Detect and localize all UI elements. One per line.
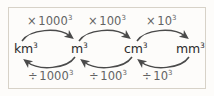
unit-exponent-km: 3 xyxy=(33,41,38,50)
unit-conversion-diagram: km3 m3 cm3 mm3 ×10003 ×1003 ×103 ÷10003 … xyxy=(0,0,214,96)
bottom-exponent-3: 3 xyxy=(168,69,173,77)
top-operand-2: 100 xyxy=(99,14,121,28)
bottom-operand-2: 100 xyxy=(100,69,122,83)
bottom-operand-3: 10 xyxy=(153,69,168,83)
bottom-exponent-2: 3 xyxy=(123,69,128,77)
divide-symbol-1: ÷ xyxy=(28,69,39,83)
multiply-symbol-3: × xyxy=(146,14,157,28)
unit-node-mm3: mm3 xyxy=(176,43,205,56)
unit-node-m3: m3 xyxy=(71,43,88,56)
top-operation-label-2: ×1003 xyxy=(88,16,126,28)
divide-symbol-3: ÷ xyxy=(142,69,153,83)
unit-label-cm: cm xyxy=(124,41,143,56)
unit-label-km: km xyxy=(14,41,33,56)
top-arrow-cm3-to-mm3 xyxy=(137,30,185,41)
unit-exponent-cm: 3 xyxy=(143,41,148,50)
divide-symbol-2: ÷ xyxy=(89,69,100,83)
bottom-arrow-cm3-to-m3 xyxy=(84,57,132,68)
multiply-symbol-1: × xyxy=(27,14,38,28)
bottom-exponent-1: 3 xyxy=(69,69,74,77)
top-operation-label-1: ×10003 xyxy=(27,16,72,28)
unit-node-km3: km3 xyxy=(14,43,38,56)
top-exponent-1: 3 xyxy=(68,14,73,22)
bottom-operation-label-1: ÷10003 xyxy=(28,71,73,83)
bottom-operand-1: 1000 xyxy=(39,69,69,83)
top-arrow-m3-to-cm3 xyxy=(79,30,127,41)
bottom-operation-label-3: ÷103 xyxy=(142,71,173,83)
top-operation-label-3: ×103 xyxy=(146,16,177,28)
top-operand-3: 10 xyxy=(157,14,172,28)
bottom-operation-label-2: ÷1003 xyxy=(89,71,127,83)
unit-label-mm: mm xyxy=(176,41,200,56)
unit-label-m: m xyxy=(71,41,83,56)
bottom-arrow-m3-to-km3 xyxy=(27,57,75,68)
top-operand-1: 1000 xyxy=(38,14,68,28)
unit-exponent-mm: 3 xyxy=(200,41,205,50)
top-exponent-3: 3 xyxy=(172,14,177,22)
top-arrow-km3-to-m3 xyxy=(22,30,70,41)
top-exponent-2: 3 xyxy=(122,14,127,22)
bottom-arrow-mm3-to-cm3 xyxy=(141,57,189,68)
unit-node-cm3: cm3 xyxy=(124,43,147,56)
unit-exponent-m: 3 xyxy=(83,41,88,50)
multiply-symbol-2: × xyxy=(88,14,99,28)
